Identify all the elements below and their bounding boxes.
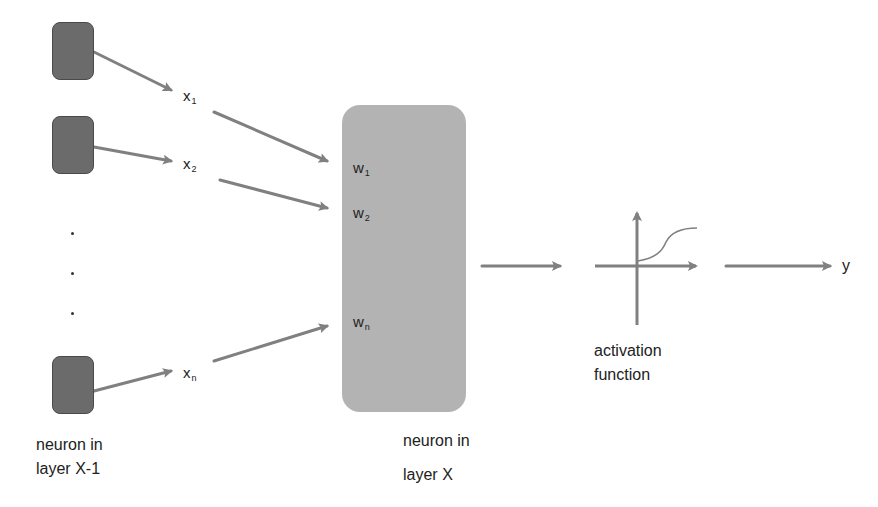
ellipsis-dot <box>71 312 74 315</box>
weight-label-w1: w1 <box>353 160 370 175</box>
output-label-y: y <box>842 258 850 274</box>
source-neuron-2 <box>52 116 94 174</box>
weight-label-wn: wn <box>353 314 370 329</box>
weight-label-w2: w2 <box>353 205 370 220</box>
source-neuron-n <box>52 356 94 414</box>
activation-caption: activation function <box>594 339 662 387</box>
neuron-diagram: neuron in layer X-1 x1 x2 xn w1 w2 wn ne… <box>0 0 878 507</box>
arrow-n1-x1 <box>94 52 171 90</box>
target-neuron <box>342 105 466 412</box>
arrow-n2-x2 <box>94 147 171 161</box>
sigmoid-plot-icon <box>595 213 697 325</box>
source-neuron-1 <box>52 22 94 80</box>
arrow-nn-xn <box>94 371 171 391</box>
input-label-xn: xn <box>183 365 197 380</box>
target-neuron-caption: neuron in layer X <box>403 424 470 492</box>
source-neuron-caption: neuron in layer X-1 <box>36 433 103 481</box>
arrow-x2-w2 <box>220 180 327 208</box>
ellipsis-dot <box>71 232 74 235</box>
input-label-x1: x1 <box>183 88 197 103</box>
input-label-x2: x2 <box>183 156 197 171</box>
arrow-xn-wn <box>214 326 327 361</box>
ellipsis-dot <box>71 272 74 275</box>
arrow-x1-w1 <box>214 112 327 161</box>
